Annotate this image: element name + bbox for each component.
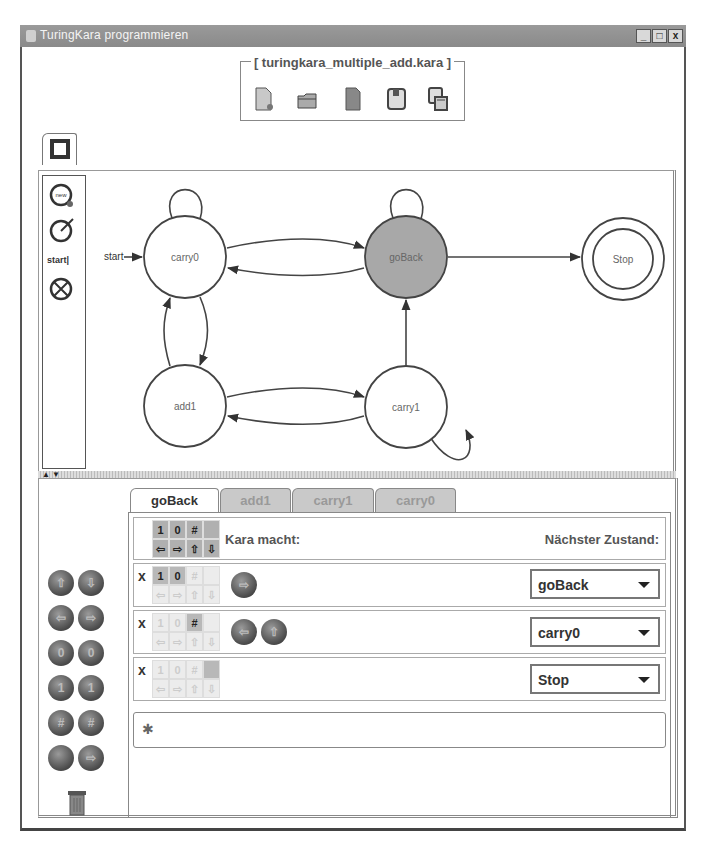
read-condition-grid[interactable]: 10 # ⇦⇨ ⇧⇩: [152, 566, 220, 604]
move-left-button[interactable]: ⇦: [48, 605, 74, 631]
action-move-right-icon[interactable]: ⇨: [231, 572, 257, 598]
read-1-button[interactable]: 1: [78, 675, 104, 701]
rule-header-row: 10 # ⇦⇨ ⇧⇩ Kara macht: Nächster Zustand:: [133, 517, 666, 560]
kara-does-label: Kara macht:: [225, 532, 300, 547]
svg-text:Stop: Stop: [613, 254, 634, 265]
symbol-header-grid: 10 # ⇦⇨ ⇧⇩: [152, 520, 220, 558]
delete-state-icon[interactable]: [48, 274, 78, 304]
state-Stop[interactable]: Stop: [582, 218, 664, 300]
chevron-down-icon: [638, 630, 650, 636]
delete-rule-icon[interactable]: x: [138, 568, 146, 584]
svg-text:goBack: goBack: [389, 252, 423, 263]
world-square-icon: [50, 139, 70, 159]
app-icon: [26, 30, 36, 42]
minimize-button[interactable]: _: [636, 29, 651, 43]
window-title: TuringKara programmieren: [40, 28, 188, 42]
file-toolbar: [ turingkara_multiple_add.kara ]: [240, 61, 465, 121]
maximize-button[interactable]: □: [652, 29, 667, 43]
world-tab[interactable]: [42, 133, 77, 165]
read-empty-button[interactable]: ⇨: [78, 745, 104, 771]
state-palette: new start|: [42, 175, 86, 469]
title-bar[interactable]: TuringKara programmieren _ □ x: [20, 25, 686, 47]
svg-text:carry0: carry0: [171, 252, 199, 263]
state-carry1[interactable]: carry1: [365, 366, 447, 448]
state-graph[interactable]: start carry0 goBack Stop add1 carry1: [86, 170, 674, 472]
next-state-select[interactable]: goBack: [530, 569, 660, 599]
split-pane-divider[interactable]: ▲ ▼: [38, 471, 676, 478]
file-name: [ turingkara_multiple_add.kara ]: [251, 55, 454, 70]
save-icon[interactable]: [385, 86, 407, 112]
read-condition-grid[interactable]: 10 # ⇦⇨ ⇧⇩: [152, 660, 220, 698]
add-rule-icon[interactable]: ✱: [142, 721, 154, 737]
put-hash-button[interactable]: #: [48, 710, 74, 736]
chevron-down-icon: [638, 677, 650, 683]
document-icon[interactable]: [342, 86, 364, 112]
save-as-icon[interactable]: [427, 86, 449, 112]
close-button[interactable]: x: [668, 29, 683, 43]
delete-rule-icon[interactable]: x: [138, 662, 146, 678]
new-state-icon[interactable]: new: [48, 182, 78, 212]
read-hash-button[interactable]: #: [78, 710, 104, 736]
action-move-up-icon[interactable]: ⇧: [261, 619, 287, 645]
trash-icon[interactable]: [67, 788, 87, 816]
tab-carry1[interactable]: carry1: [292, 488, 374, 512]
state-goBack[interactable]: goBack: [365, 216, 447, 298]
tab-carry0[interactable]: carry0: [375, 488, 456, 512]
next-state-select[interactable]: carry0: [530, 617, 660, 647]
chevron-down-icon: [638, 582, 650, 588]
next-state-select[interactable]: Stop: [530, 664, 660, 694]
move-down-button[interactable]: ⇩: [78, 570, 104, 596]
svg-text:add1: add1: [174, 401, 197, 412]
delete-rule-icon[interactable]: x: [138, 615, 146, 631]
move-up-button[interactable]: ⇧: [48, 570, 74, 596]
next-state-label: Nächster Zustand:: [545, 532, 659, 547]
tab-goBack[interactable]: goBack: [130, 488, 219, 513]
action-move-left-icon[interactable]: ⇦: [231, 619, 257, 645]
state-carry0[interactable]: carry0: [144, 216, 226, 298]
open-folder-icon[interactable]: [296, 86, 318, 112]
put-1-button[interactable]: 1: [48, 675, 74, 701]
tab-add1[interactable]: add1: [220, 488, 291, 512]
start-state-tool[interactable]: start|: [47, 255, 69, 265]
read-condition-grid[interactable]: 10 # ⇦⇨ ⇧⇩: [152, 613, 220, 651]
start-label: start: [104, 251, 124, 262]
add-rule-row[interactable]: ✱: [133, 712, 666, 748]
svg-text:new: new: [55, 192, 67, 198]
new-file-icon[interactable]: [253, 86, 275, 112]
state-add1[interactable]: add1: [144, 365, 226, 447]
svg-text:carry1: carry1: [392, 402, 420, 413]
read-0-button[interactable]: 0: [78, 640, 104, 666]
put-0-button[interactable]: 0: [48, 640, 74, 666]
edit-state-icon[interactable]: [48, 216, 78, 246]
move-right-button[interactable]: ⇨: [78, 605, 104, 631]
put-empty-button[interactable]: [48, 745, 74, 771]
